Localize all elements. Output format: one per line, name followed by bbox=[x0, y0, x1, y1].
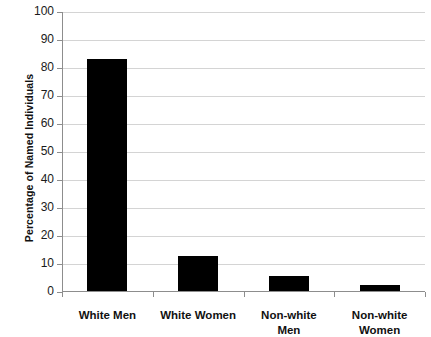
y-axis-tick-label: 70 bbox=[12, 89, 54, 101]
y-axis-line bbox=[62, 12, 63, 292]
x-axis-category-label: Non-whiteWomen bbox=[334, 308, 425, 337]
x-axis-category-label: Non-whiteMen bbox=[244, 308, 335, 337]
y-axis-tick-label: 90 bbox=[12, 33, 54, 45]
x-axis-category-label-line: Non-white bbox=[244, 308, 335, 323]
x-axis-tick bbox=[425, 292, 426, 297]
x-axis-tick bbox=[334, 292, 335, 297]
y-axis-tick-label: 10 bbox=[12, 257, 54, 269]
bar bbox=[178, 256, 218, 291]
x-axis-category-label-line: White Women bbox=[153, 308, 244, 323]
gridline bbox=[62, 12, 425, 13]
bar-chart: Percentage of Named Individuals White Me… bbox=[0, 0, 431, 337]
y-axis-tick-label: 40 bbox=[12, 173, 54, 185]
x-axis-category-label-line: Non-white bbox=[334, 308, 425, 323]
x-axis-category-label-line: White Men bbox=[62, 308, 153, 323]
x-axis-tick bbox=[62, 292, 63, 297]
x-axis-tick bbox=[244, 292, 245, 297]
bar bbox=[87, 59, 127, 291]
y-axis-tick-label: 20 bbox=[12, 229, 54, 241]
y-axis-tick-label: 100 bbox=[12, 5, 54, 17]
bar bbox=[269, 276, 309, 291]
gridline bbox=[62, 40, 425, 41]
x-axis-category-label: White Women bbox=[153, 308, 244, 323]
x-axis-category-label-line: Women bbox=[334, 323, 425, 337]
x-axis-line bbox=[62, 291, 425, 292]
y-axis-tick-label: 60 bbox=[12, 117, 54, 129]
y-axis-tick-label: 0 bbox=[12, 285, 54, 297]
y-axis-tick-label: 80 bbox=[12, 61, 54, 73]
x-axis-category-label-line: Men bbox=[244, 323, 335, 337]
plot-area: White MenWhite WomenNon-whiteMenNon-whit… bbox=[62, 12, 425, 292]
x-axis-category-label: White Men bbox=[62, 308, 153, 323]
y-axis-tick-label: 50 bbox=[12, 145, 54, 157]
x-axis-tick bbox=[153, 292, 154, 297]
y-axis-tick-label: 30 bbox=[12, 201, 54, 213]
